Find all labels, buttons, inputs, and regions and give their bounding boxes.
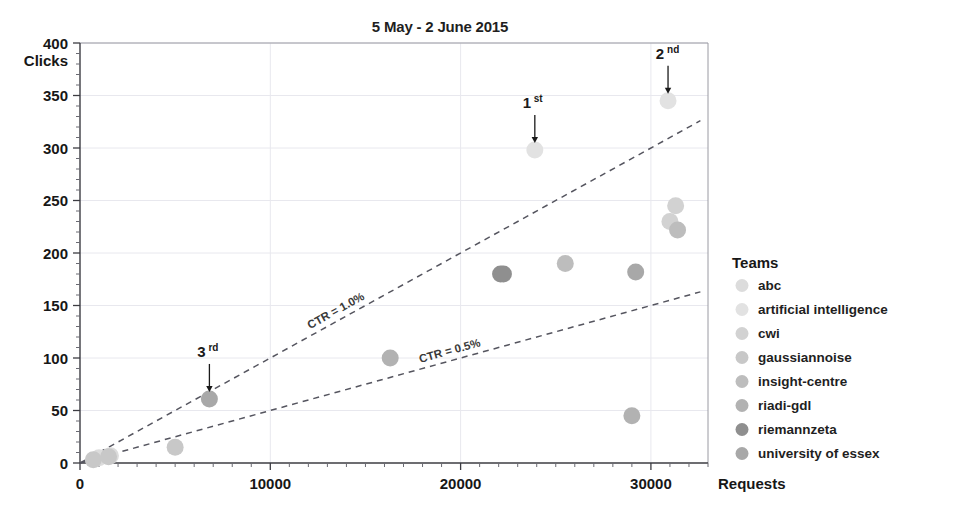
legend-item[interactable]: gaussiannoise bbox=[736, 350, 853, 365]
legend-item-label: abc bbox=[758, 278, 782, 293]
x-tick-label: 0 bbox=[76, 475, 84, 492]
legend-item-label: riemannzeta bbox=[758, 422, 837, 437]
legend-item-label: artificial intelligence bbox=[758, 302, 888, 317]
data-point[interactable] bbox=[85, 451, 102, 468]
legend-item-label: insight-centre bbox=[758, 374, 848, 389]
data-point[interactable] bbox=[495, 266, 512, 283]
data-point[interactable] bbox=[669, 221, 686, 238]
legend-swatch-icon bbox=[736, 399, 749, 412]
legend-item-label: cwi bbox=[758, 326, 780, 341]
y-tick-label: 300 bbox=[43, 140, 68, 157]
x-tick-label: 30000 bbox=[630, 475, 672, 492]
data-point[interactable] bbox=[100, 448, 117, 465]
legend-item[interactable]: riadi-gdl bbox=[736, 398, 812, 413]
legend-swatch-icon bbox=[736, 303, 749, 316]
data-point[interactable] bbox=[660, 92, 677, 109]
rank-annotation-suffix: nd bbox=[667, 44, 679, 55]
legend-item[interactable]: insight-centre bbox=[736, 374, 848, 389]
y-tick-label: 200 bbox=[43, 245, 68, 262]
ctr-line-label: CTR = 0.5% bbox=[418, 337, 482, 365]
legend-item-label: university of essex bbox=[758, 446, 880, 461]
y-tick-label: 100 bbox=[43, 350, 68, 367]
ctr-reference-line bbox=[80, 292, 700, 463]
rank-annotation-number: 1 bbox=[523, 94, 531, 111]
legend-item[interactable]: cwi bbox=[736, 326, 780, 341]
grid-layer bbox=[80, 43, 708, 463]
reference-lines-layer: CTR = 1.0%CTR = 0.5% bbox=[80, 121, 700, 463]
data-point[interactable] bbox=[167, 439, 184, 456]
data-points-layer bbox=[85, 92, 686, 468]
rank-annotation: 1st bbox=[523, 93, 544, 111]
legend-item[interactable]: abc bbox=[736, 278, 782, 293]
y-tick-label: 350 bbox=[43, 87, 68, 104]
legend-swatch-icon bbox=[736, 351, 749, 364]
legend-item-label: riadi-gdl bbox=[758, 398, 811, 413]
rank-annotation-suffix: st bbox=[534, 93, 544, 104]
y-axis-title: Clicks bbox=[24, 52, 68, 69]
legend-swatch-icon bbox=[736, 423, 749, 436]
rank-annotation-number: 3 bbox=[197, 343, 205, 360]
ctr-reference-line bbox=[80, 121, 700, 463]
rank-annotation: 3rd bbox=[197, 342, 218, 360]
legend-item[interactable]: artificial intelligence bbox=[736, 302, 889, 317]
y-tick-label: 150 bbox=[43, 297, 68, 314]
x-axis-title: Requests bbox=[718, 475, 786, 492]
legend-swatch-icon bbox=[736, 447, 749, 460]
legend-swatch-icon bbox=[736, 279, 749, 292]
y-tick-label: 50 bbox=[51, 402, 68, 419]
data-point[interactable] bbox=[623, 407, 640, 424]
y-tick-label: 400 bbox=[43, 35, 68, 52]
x-tick-label: 20000 bbox=[440, 475, 482, 492]
chart-canvas: 0501001502002503003504000100002000030000… bbox=[0, 0, 970, 526]
x-tick-label: 10000 bbox=[249, 475, 291, 492]
legend-title: Teams bbox=[732, 254, 778, 271]
data-point[interactable] bbox=[667, 197, 684, 214]
ctr-line-label: CTR = 1.0% bbox=[305, 290, 366, 331]
legend: Teamsabcartificial intelligencecwigaussi… bbox=[732, 254, 888, 461]
legend-item[interactable]: riemannzeta bbox=[736, 422, 838, 437]
rank-annotation-number: 2 bbox=[656, 45, 664, 62]
rank-annotation-suffix: rd bbox=[208, 342, 218, 353]
data-point[interactable] bbox=[201, 390, 218, 407]
data-point[interactable] bbox=[557, 255, 574, 272]
rank-annotation: 2nd bbox=[656, 44, 679, 62]
data-point[interactable] bbox=[382, 350, 399, 367]
legend-item[interactable]: university of essex bbox=[736, 446, 881, 461]
data-point[interactable] bbox=[627, 263, 644, 280]
data-point[interactable] bbox=[526, 142, 543, 159]
legend-swatch-icon bbox=[736, 327, 749, 340]
legend-swatch-icon bbox=[736, 375, 749, 388]
legend-item-label: gaussiannoise bbox=[758, 350, 852, 365]
scatter-chart: 5 May - 2 June 2015 05010015020025030035… bbox=[0, 0, 970, 526]
y-tick-label: 250 bbox=[43, 192, 68, 209]
y-tick-label: 0 bbox=[60, 455, 68, 472]
